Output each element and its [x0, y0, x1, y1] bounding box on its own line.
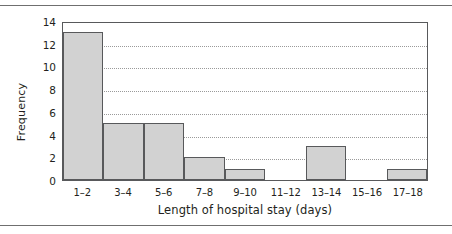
x-tick-label: 5–6 — [143, 186, 184, 200]
bar — [63, 32, 103, 180]
x-tick-label: 15–16 — [347, 186, 388, 200]
bar-slot — [225, 23, 265, 180]
top-divider-rule — [0, 5, 452, 6]
plot-area — [62, 22, 428, 181]
y-tick-label: 10 — [32, 62, 56, 72]
bottom-divider-rule — [0, 225, 452, 226]
bar-slot — [184, 23, 224, 180]
bar-slot — [346, 23, 386, 180]
x-tick-label: 13–14 — [306, 186, 347, 200]
x-tick-label: 17–18 — [387, 186, 428, 200]
bar-series — [63, 23, 427, 180]
histogram-figure: Frequency 14121086420 1–23–45–67–89–1011… — [0, 0, 452, 234]
bar-slot — [306, 23, 346, 180]
x-tick-label: 7–8 — [184, 186, 225, 200]
x-tick-label: 11–12 — [265, 186, 306, 200]
x-tick-label: 1–2 — [62, 186, 103, 200]
x-axis-label: Length of hospital stay (days) — [62, 203, 428, 217]
bar — [144, 123, 184, 180]
bar-slot — [265, 23, 305, 180]
x-tick-label: 9–10 — [225, 186, 266, 200]
bar-slot — [103, 23, 143, 180]
bar — [103, 123, 143, 180]
bar-slot — [387, 23, 427, 180]
bar-slot — [144, 23, 184, 180]
bar — [184, 157, 224, 180]
bar — [306, 146, 346, 180]
bar — [387, 169, 427, 180]
y-tick-label: 6 — [32, 108, 56, 118]
x-axis-tick-labels: 1–23–45–67–89–1011–1213–1415–1617–18 — [62, 186, 428, 200]
y-tick-label: 8 — [32, 85, 56, 95]
y-axis-tick-labels: 14121086420 — [30, 0, 56, 234]
bar-slot — [63, 23, 103, 180]
x-tick-label: 3–4 — [103, 186, 144, 200]
y-tick-label: 2 — [32, 153, 56, 163]
y-tick-label: 12 — [32, 40, 56, 50]
y-tick-label: 14 — [32, 17, 56, 27]
bar — [225, 169, 265, 180]
y-tick-label: 4 — [32, 131, 56, 141]
y-tick-label: 0 — [32, 176, 56, 186]
